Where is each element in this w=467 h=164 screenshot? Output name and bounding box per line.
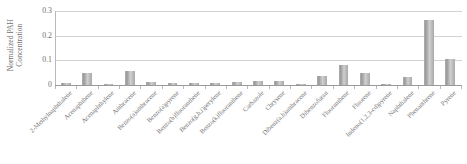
y-axis-tick-label: 0.1: [26, 56, 52, 64]
y-axis-tick-label: 0.3: [26, 7, 52, 15]
y-axis-tick-label: 0.2: [26, 32, 52, 40]
y-axis-title-line-2: Concentration: [15, 19, 24, 71]
pah-concentration-bar-chart: Normalized PAH Concentration 0.30.20.10 …: [0, 0, 467, 164]
y-axis-tick-labels: 0.30.20.10: [26, 0, 52, 90]
x-axis-tick-labels: 2-MethylnaphthaleneAcenaphtheneAcenaphth…: [0, 89, 467, 164]
y-axis-tick-label: 0: [26, 81, 52, 89]
y-axis-title-line-1: Normalized PAH: [6, 19, 15, 71]
